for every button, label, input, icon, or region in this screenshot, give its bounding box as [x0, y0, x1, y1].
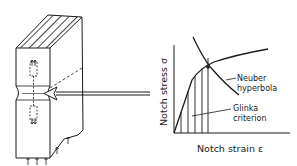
notch-element-markers [30, 62, 37, 120]
pointer-arrow [22, 87, 150, 100]
notch-left [16, 86, 19, 100]
hatched-cross-section [16, 15, 82, 48]
x-axis-label: Notch strain ε [197, 143, 263, 154]
glinka-label-line1: Glinka [233, 104, 258, 113]
neuber-leader-line [226, 78, 236, 80]
neuber-label-line2: hyperbola [237, 84, 277, 93]
diagram-canvas: Notch stress σ Notch strain ε Neuber hyp… [0, 0, 297, 166]
notch-root-dashed-line [50, 68, 82, 88]
neuber-label-line1: Neuber [237, 74, 267, 83]
neuber-intersection-point [206, 65, 210, 69]
glinka-label-line2: criterion [233, 114, 266, 123]
glinka-energy-area-lines [181, 58, 208, 133]
y-axis-label: Notch stress σ [158, 58, 169, 126]
side-face-bottom [50, 130, 83, 158]
neuber-hyperbola-curve [193, 37, 239, 95]
notched-specimen [16, 15, 83, 165]
bottom-load-arrows-icon [27, 137, 70, 165]
glinka-leader-line [192, 109, 231, 116]
side-face-edge [82, 17, 83, 130]
